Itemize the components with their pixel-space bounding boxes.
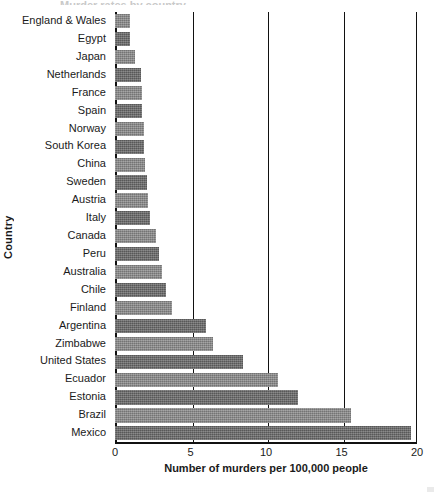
x-tick-label: 20 xyxy=(411,446,423,458)
corner-artifact xyxy=(427,487,434,492)
bar-row xyxy=(115,388,417,406)
bar xyxy=(115,68,141,82)
bar xyxy=(115,265,162,279)
y-tick-label: Canada xyxy=(0,227,106,245)
y-tick-label: Japan xyxy=(0,48,106,66)
y-tick-label: Argentina xyxy=(0,317,106,335)
bar xyxy=(115,319,206,333)
bar-row xyxy=(115,209,417,227)
bar-row xyxy=(115,263,417,281)
bar xyxy=(115,104,142,118)
bar xyxy=(115,283,166,297)
bar xyxy=(115,301,172,315)
bar-chart: Murder rates by country Country England … xyxy=(0,0,436,494)
bar xyxy=(115,426,411,440)
bar xyxy=(115,337,213,351)
bar-row xyxy=(115,335,417,353)
y-tick-label: Ecuador xyxy=(0,370,106,388)
y-tick-label: China xyxy=(0,155,106,173)
y-tick-label: Finland xyxy=(0,299,106,317)
bar-row xyxy=(115,227,417,245)
bar-row xyxy=(115,281,417,299)
bar-row xyxy=(115,155,417,173)
bar-row xyxy=(115,191,417,209)
bar xyxy=(115,193,148,207)
bar-row xyxy=(115,245,417,263)
y-tick-label: Mexico xyxy=(0,424,106,442)
bar xyxy=(115,14,130,28)
bar xyxy=(115,32,130,46)
y-tick-label: Peru xyxy=(0,245,106,263)
y-tick-label: Austria xyxy=(0,191,106,209)
y-tick-label: Estonia xyxy=(0,388,106,406)
bar-row xyxy=(115,370,417,388)
x-tick-label: 0 xyxy=(112,446,118,458)
x-axis-title: Number of murders per 100,000 people xyxy=(115,462,417,474)
x-tick-label: 10 xyxy=(260,446,272,458)
bar xyxy=(115,158,145,172)
y-tick-label: South Korea xyxy=(0,137,106,155)
x-tick-label: 5 xyxy=(187,446,193,458)
bar xyxy=(115,50,135,64)
y-tick-label: Egypt xyxy=(0,30,106,48)
bar-row xyxy=(115,66,417,84)
bar-row xyxy=(115,12,417,30)
bar-row xyxy=(115,424,417,442)
y-tick-label: Australia xyxy=(0,263,106,281)
y-tick-label: Brazil xyxy=(0,406,106,424)
bar-row xyxy=(115,317,417,335)
bar xyxy=(115,390,298,404)
y-tick-label: Sweden xyxy=(0,173,106,191)
bar xyxy=(115,140,144,154)
y-tick-label: United States xyxy=(0,352,106,370)
x-tick-label: 15 xyxy=(335,446,347,458)
y-tick-label: Spain xyxy=(0,102,106,120)
bar-row xyxy=(115,102,417,120)
bar xyxy=(115,229,156,243)
bar-row xyxy=(115,137,417,155)
bar xyxy=(115,211,150,225)
bar-series xyxy=(115,12,417,442)
bar xyxy=(115,247,159,261)
chart-title-remnant: Murder rates by country xyxy=(60,0,360,5)
y-tick-label: Chile xyxy=(0,281,106,299)
y-tick-label: Norway xyxy=(0,120,106,138)
y-tick-label: Zimbabwe xyxy=(0,335,106,353)
bar xyxy=(115,86,142,100)
bar xyxy=(115,175,147,189)
y-tick-labels: England & WalesEgyptJapanNetherlandsFran… xyxy=(0,12,110,442)
bar-row xyxy=(115,406,417,424)
bar xyxy=(115,122,144,136)
bar-row xyxy=(115,48,417,66)
y-tick-label: Italy xyxy=(0,209,106,227)
y-tick-label: England & Wales xyxy=(0,12,106,30)
y-tick-label: France xyxy=(0,84,106,102)
y-tick-label: Netherlands xyxy=(0,66,106,84)
x-tick-labels: 05101520 xyxy=(115,446,417,462)
bar-row xyxy=(115,120,417,138)
bar xyxy=(115,355,243,369)
bar-row xyxy=(115,84,417,102)
bar xyxy=(115,373,278,387)
bar-row xyxy=(115,299,417,317)
bar xyxy=(115,408,351,422)
bar-row xyxy=(115,173,417,191)
bar-row xyxy=(115,352,417,370)
bar-row xyxy=(115,30,417,48)
